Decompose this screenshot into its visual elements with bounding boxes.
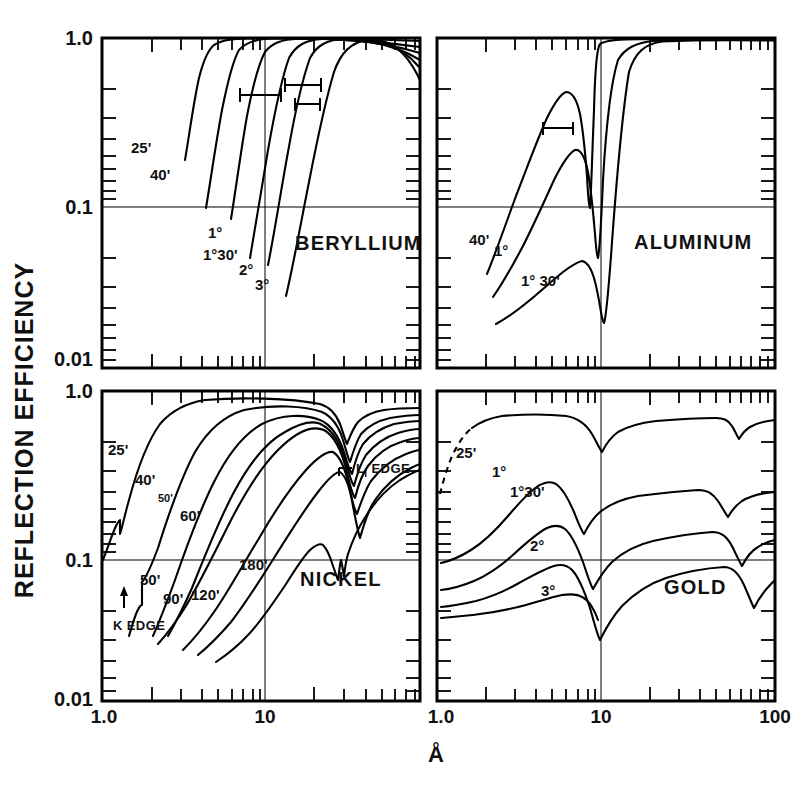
curve-label-ni-25: 25' [108, 441, 128, 458]
curve-be-3deg [286, 40, 420, 296]
curve-label-au-1deg30: 1°30' [510, 483, 545, 500]
k-edge-arrow-nickel [120, 586, 128, 608]
curves-gold [440, 415, 775, 641]
curve-au-25-dashed [440, 428, 472, 494]
x-tick-right-10: 10 [590, 706, 611, 727]
curve-au-3deg [441, 594, 598, 620]
curve-label-au-1deg: 1° [492, 463, 506, 480]
curve-label-au-3deg: 3° [541, 582, 555, 599]
nickel-k-edge-label: K EDGE [113, 618, 165, 633]
y-tick-bot-1: 1.0 [65, 380, 93, 402]
figure-reflection-efficiency: REFLECTION EFFICIENCY 1.0 0.1 0.01 1.0 0… [0, 0, 812, 805]
panel-title-nickel: NICKEL [300, 568, 382, 590]
curve-label-ni-180: 180' [239, 556, 268, 573]
y-tick-top-001: 0.01 [54, 348, 93, 370]
panel-aluminum: 40' 1° 1° 30' ALUMINUM [437, 38, 775, 368]
curve-label-al-1deg: 1° [494, 242, 508, 259]
x-axis-label-angstrom: Å [428, 741, 444, 767]
curve-ni-90 [183, 450, 420, 650]
panel-nickel: LI EDGE K EDGE 25' 40' 50' 60' 50' 90' 1… [102, 391, 420, 701]
y-axis-label: REFLECTION EFFICIENCY [10, 262, 38, 598]
curve-label-be-1deg: 1° [208, 224, 222, 241]
curve-label-be-3deg: 3° [255, 276, 269, 293]
y-ticks-beryllium [102, 89, 420, 360]
panel-frame-gold [437, 391, 775, 701]
curve-ni-60 [168, 423, 420, 636]
error-bars-aluminum [543, 122, 573, 135]
x-ticks-gold [486, 391, 768, 701]
panel-title-aluminum: ALUMINUM [634, 231, 752, 253]
x-tick-right-1: 1.0 [428, 706, 454, 727]
curve-label-ni-120: 120' [191, 586, 220, 603]
panel-gold: 25' 1° 1°30' 2° 3° GOLD [437, 391, 775, 701]
curve-label-al-40: 40' [469, 231, 489, 248]
nickel-l-edge-label: LI EDGE [356, 461, 410, 479]
curve-label-al-1deg30: 1° 30' [521, 272, 560, 289]
panel-beryllium: 25' 40' 1° 1°30' 2° 3° BERYLLIUM [102, 38, 422, 368]
curve-be-40 [206, 38, 420, 208]
curve-al-1deg [493, 40, 775, 297]
x-tick-left-10: 10 [254, 706, 275, 727]
panel-frame-beryllium [102, 38, 420, 368]
curve-label-ni-50b: 50' [140, 571, 160, 588]
x-ticks-beryllium [152, 38, 415, 368]
y-tick-top-01: 0.1 [65, 196, 93, 218]
curve-label-ni-50a: 50' [158, 492, 173, 504]
y-tick-top-1: 1.0 [65, 27, 93, 49]
curve-label-be-1deg30: 1°30' [203, 246, 238, 263]
error-bars-beryllium [240, 78, 321, 111]
curve-label-ni-40: 40' [135, 471, 155, 488]
x-ticks-nickel [152, 391, 415, 701]
curve-label-be-2deg: 2° [239, 261, 253, 278]
curve-au-25 [472, 415, 775, 453]
curve-label-au-25: 25' [456, 444, 476, 461]
panel-frame-nickel [102, 391, 420, 701]
curve-label-au-2deg: 2° [530, 537, 544, 554]
panel-title-gold: GOLD [664, 576, 727, 598]
curve-label-ni-90: 90' [163, 590, 183, 607]
y-tick-bot-001: 0.01 [54, 688, 93, 710]
curve-be-25 [185, 38, 420, 160]
curve-label-ni-60: 60' [180, 507, 200, 524]
curve-label-be-25: 25' [131, 139, 151, 156]
x-tick-left-1: 1.0 [91, 706, 117, 727]
x-tick-right-100: 100 [759, 706, 791, 727]
curve-au-1deg [441, 482, 775, 563]
curve-label-be-40: 40' [150, 166, 170, 183]
y-tick-bot-01: 0.1 [65, 549, 93, 571]
panel-title-beryllium: BERYLLIUM [295, 232, 422, 254]
curve-be-1deg [231, 39, 420, 219]
